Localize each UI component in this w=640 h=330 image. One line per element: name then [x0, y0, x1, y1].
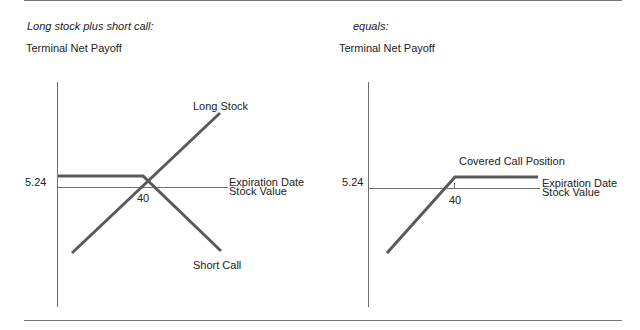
payoff-charts	[0, 0, 640, 330]
long-stock-line	[72, 113, 220, 253]
